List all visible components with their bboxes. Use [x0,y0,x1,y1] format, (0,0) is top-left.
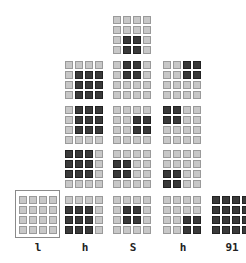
inactive-cell [183,106,191,114]
inactive-cell [113,36,121,44]
inactive-cell [95,170,103,178]
active-cell [242,226,246,234]
inactive-cell [163,216,171,224]
inactive-cell [95,226,103,234]
inactive-cell [193,136,201,144]
inactive-cell [123,180,131,188]
inactive-cell [123,16,131,24]
active-cell [222,216,230,224]
inactive-cell [143,61,151,69]
active-cell [222,226,230,234]
inactive-cell [95,216,103,224]
inactive-cell [143,71,151,79]
active-cell [183,216,191,224]
inactive-cell [183,91,191,99]
active-cell [173,170,181,178]
inactive-cell [65,106,73,114]
active-cell [65,150,73,158]
inactive-cell [75,196,83,204]
inactive-cell [65,116,73,124]
binary-grid-c3r3 [113,150,151,188]
binary-grid-c4r1 [163,61,201,99]
inactive-cell [75,180,83,188]
inactive-cell [173,91,181,99]
inactive-cell [183,180,191,188]
inactive-cell [173,71,181,79]
active-cell [212,206,220,214]
active-cell [133,126,141,134]
inactive-cell [193,150,201,158]
inactive-cell [85,180,93,188]
inactive-cell [183,196,191,204]
inactive-cell [133,226,141,234]
inactive-cell [65,180,73,188]
active-cell [123,36,131,44]
inactive-cell [143,136,151,144]
active-cell [95,126,103,134]
active-cell [163,170,171,178]
binary-grid-c4r2 [163,106,201,144]
inactive-cell [183,81,191,89]
active-cell [143,126,151,134]
binary-grid-c2r3 [65,150,103,188]
active-cell [75,71,83,79]
active-cell [95,91,103,99]
active-cell [242,216,246,224]
binary-grid-c2r4 [65,196,103,234]
inactive-cell [183,136,191,144]
active-cell [212,216,220,224]
inactive-cell [143,81,151,89]
inactive-cell [113,216,121,224]
active-cell [85,226,93,234]
inactive-cell [29,196,37,204]
inactive-cell [143,216,151,224]
inactive-cell [173,81,181,89]
inactive-cell [133,160,141,168]
inactive-cell [133,180,141,188]
active-cell [65,216,73,224]
inactive-cell [163,160,171,168]
active-cell [85,170,93,178]
inactive-cell [95,136,103,144]
inactive-cell [65,71,73,79]
column-label: h [163,241,203,254]
inactive-cell [193,116,201,124]
active-cell [222,206,230,214]
inactive-cell [163,206,171,214]
inactive-cell [163,226,171,234]
active-cell [85,106,93,114]
column-label: S [113,241,153,254]
active-cell [193,216,201,224]
binary-grid-c3r0 [113,16,151,54]
active-cell [95,71,103,79]
active-cell [123,216,131,224]
inactive-cell [193,170,201,178]
inactive-cell [123,226,131,234]
inactive-cell [133,16,141,24]
inactive-cell [163,81,171,89]
active-cell [65,160,73,168]
active-cell [75,216,83,224]
inactive-cell [143,226,151,234]
active-cell [75,226,83,234]
inactive-cell [39,216,47,224]
active-cell [133,206,141,214]
active-cell [143,116,151,124]
inactive-cell [163,150,171,158]
active-cell [173,116,181,124]
active-cell [85,71,93,79]
inactive-cell [133,91,141,99]
inactive-cell [123,126,131,134]
active-cell [75,81,83,89]
binary-grid-c3r1 [113,61,151,99]
inactive-cell [143,91,151,99]
inactive-cell [163,71,171,79]
inactive-cell [65,126,73,134]
inactive-cell [173,150,181,158]
inactive-cell [39,196,47,204]
inactive-cell [173,160,181,168]
inactive-cell [163,126,171,134]
active-cell [133,36,141,44]
inactive-cell [133,170,141,178]
inactive-cell [193,206,201,214]
